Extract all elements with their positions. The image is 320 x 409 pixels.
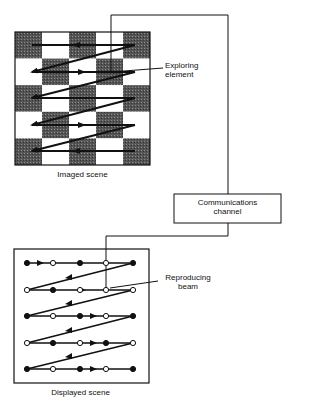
dot-filled: [103, 340, 108, 345]
dot-filled: [130, 313, 135, 318]
reproducing-beam-label: Reproducing beam: [158, 273, 218, 291]
exploring-element-label: Exploring element: [165, 61, 215, 79]
channel-line1: Communications: [174, 198, 281, 207]
dot-open: [103, 260, 108, 265]
imaged-scene-caption: Imaged scene: [40, 170, 125, 179]
dot-open: [50, 260, 55, 265]
dot-open: [24, 340, 29, 345]
communications-channel-label: Communications channel: [174, 198, 281, 216]
dot-filled: [77, 313, 82, 318]
dot-filled: [24, 366, 29, 371]
dot-open: [50, 366, 55, 371]
dot-filled: [50, 340, 55, 345]
dot-open: [103, 313, 108, 318]
dot-filled: [130, 260, 135, 265]
reproducing-line1: Reproducing: [158, 273, 218, 282]
channel-line2: channel: [174, 207, 281, 216]
dot-open: [130, 340, 135, 345]
displayed-scene-caption: Displayed scene: [38, 388, 123, 397]
dot-filled: [24, 313, 29, 318]
dot-open: [130, 287, 135, 292]
dot-open: [103, 287, 108, 292]
dot-open: [77, 340, 82, 345]
dot-open: [77, 287, 82, 292]
reproducing-line2: beam: [158, 282, 218, 291]
dot-filled: [130, 366, 135, 371]
exploring-element-text: Exploring element: [165, 61, 211, 79]
dot-filled: [77, 260, 82, 265]
dot-open: [24, 287, 29, 292]
dot-open: [103, 366, 108, 371]
reproducing-beam-leader: [110, 281, 158, 288]
dot-filled: [77, 366, 82, 371]
dot-open: [50, 313, 55, 318]
dot-filled: [24, 260, 29, 265]
dot-filled: [50, 287, 55, 292]
